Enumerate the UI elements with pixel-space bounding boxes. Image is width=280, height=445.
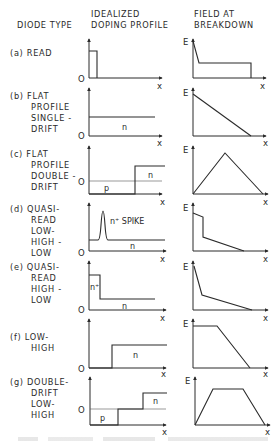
header-doping-line2: DOPING PROFILE <box>91 20 169 30</box>
region-n: n <box>133 351 138 360</box>
row-d-label-4: HIGH - <box>31 237 62 247</box>
x-axis-label: x <box>263 197 268 207</box>
row-e-quasi-read-high-low: (e) QUASI- READ HIGH - LOW n⁺ n O x E x <box>10 261 268 323</box>
row-d-label-1: (d) QUASI- <box>10 204 60 214</box>
faint-caption-line <box>18 437 268 441</box>
row-d-label-5: LOW <box>31 248 52 258</box>
x-axis-label: x <box>263 369 268 379</box>
region-p: p <box>104 184 109 193</box>
x-axis-label: x <box>161 369 166 379</box>
row-b-label-3: SINGLE - <box>31 113 72 123</box>
row-f-label-2: HIGH <box>31 343 55 353</box>
row-d-quasi-read-low-high-low: (d) QUASI- READ LOW- HIGH - LOW n⁺ SPIKE… <box>10 203 268 264</box>
row-g-label-2: DRIFT <box>31 388 59 398</box>
origin-label: O <box>78 364 85 374</box>
e-axis-label: E <box>183 319 188 329</box>
x-axis-label: x <box>260 81 265 91</box>
x-axis-label: x <box>157 138 162 148</box>
row-g-field-plot: E x <box>185 376 270 437</box>
origin-label: O <box>78 74 85 84</box>
x-axis-label: x <box>263 254 268 264</box>
row-g-doping-plot: p n O x <box>78 377 167 437</box>
region-n: n <box>153 397 158 406</box>
row-d-doping-plot: n⁺ SPIKE n O x <box>78 203 166 264</box>
row-f-doping-plot: n O x <box>78 319 167 379</box>
doping-curve <box>89 166 165 194</box>
row-d-field-plot: E x <box>183 203 268 264</box>
row-a-label: (a) READ <box>10 48 52 58</box>
row-c-field-plot: E x <box>183 145 268 207</box>
origin-label: O <box>78 305 85 315</box>
field-curve <box>193 153 263 194</box>
field-curve <box>195 389 265 425</box>
row-g-label-3: LOW- <box>31 399 55 409</box>
row-a-doping-plot: O x <box>78 39 162 91</box>
row-d-label-2: READ <box>31 215 57 225</box>
row-b-label-2: PROFILE <box>31 102 70 112</box>
row-e-label-2: READ <box>31 273 57 283</box>
header-diode-type: DIODE TYPE <box>17 20 72 30</box>
field-curve <box>193 94 251 136</box>
e-axis-label: E <box>185 376 190 386</box>
row-b-field-plot: E x <box>183 88 268 148</box>
field-curve <box>193 41 251 78</box>
row-b-label-1: (b) FLAT <box>10 91 50 101</box>
x-axis-label: x <box>162 427 167 437</box>
row-g-label-1: (g) DOUBLE- <box>10 377 69 387</box>
region-n-plus-spike: n⁺ SPIKE <box>110 217 144 226</box>
x-axis-label: x <box>160 254 165 264</box>
row-b-doping-plot: n O x <box>78 88 162 148</box>
row-c-label-3: DOUBLE - <box>31 171 76 181</box>
header-field-line2: BREAKDOWN <box>194 20 254 30</box>
row-a-field-plot: E x <box>183 37 266 91</box>
x-axis-label: x <box>263 313 268 323</box>
x-axis-label: x <box>265 427 270 437</box>
e-axis-label: E <box>183 262 188 272</box>
origin-label: O <box>78 248 85 258</box>
region-n: n <box>148 171 153 180</box>
region-p: p <box>100 414 105 423</box>
row-f-label-1: (f) LOW- <box>10 332 49 342</box>
region-n-plus: n⁺ <box>90 283 99 292</box>
region-n: n <box>122 123 127 132</box>
row-b-flat-single-drift: (b) FLAT PROFILE SINGLE - DRIFT n O x E … <box>10 88 268 148</box>
doping-curve <box>89 51 97 78</box>
x-axis-label: x <box>263 138 268 148</box>
doping-curve <box>89 345 167 368</box>
e-axis-label: E <box>183 37 188 47</box>
field-curve <box>193 326 250 368</box>
field-curve <box>194 266 252 310</box>
row-g-double-drift-low-high: (g) DOUBLE- DRIFT LOW- HIGH p n O x E x <box>10 376 270 437</box>
x-axis-label: x <box>160 197 165 207</box>
row-c-doping-plot: p n O x <box>78 146 165 207</box>
e-axis-label: E <box>183 145 188 155</box>
row-e-field-plot: E x <box>183 261 268 323</box>
e-axis-label: E <box>183 203 188 213</box>
row-e-label-3: HIGH - <box>31 284 62 294</box>
header-doping-line1: IDEALIZED <box>91 9 140 19</box>
row-e-label-1: (e) QUASI- <box>10 262 60 272</box>
origin-label: O <box>78 177 85 187</box>
row-c-flat-double-drift: (c) FLAT PROFILE DOUBLE - DRIFT p n O x … <box>10 145 268 207</box>
row-f-field-plot: E x <box>183 319 268 379</box>
row-c-label-2: PROFILE <box>31 160 70 170</box>
origin-label: O <box>78 405 85 415</box>
origin-label: O <box>78 131 85 141</box>
x-axis-label: x <box>157 81 162 91</box>
row-e-label-4: LOW <box>31 295 52 305</box>
row-c-label-1: (c) FLAT <box>10 149 49 159</box>
header-field-line1: FIELD AT <box>194 9 235 19</box>
e-axis-label: E <box>183 88 188 98</box>
row-b-label-4: DRIFT <box>31 124 59 134</box>
row-f-low-high: (f) LOW- HIGH n O x E x <box>10 319 268 379</box>
region-n: n <box>122 302 127 311</box>
row-a-read: (a) READ O x E x <box>10 37 266 91</box>
field-curve <box>193 213 244 251</box>
row-g-label-4: HIGH <box>31 410 55 420</box>
x-axis-label: x <box>160 313 165 323</box>
row-d-label-3: LOW- <box>31 226 55 236</box>
diode-doping-field-diagram: DIODE TYPE IDEALIZED DOPING PROFILE FIEL… <box>0 0 280 445</box>
row-e-doping-plot: n⁺ n O x <box>78 261 166 323</box>
region-n: n <box>130 242 135 251</box>
row-c-label-4: DRIFT <box>31 182 59 192</box>
